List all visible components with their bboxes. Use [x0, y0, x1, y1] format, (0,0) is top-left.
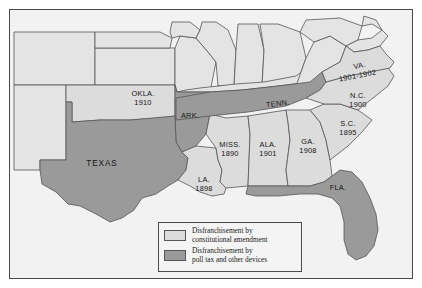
label-north-carolina-year: 1900	[349, 100, 366, 109]
legend-label-constitutional-amendment: Disfranchisement by constitutional amend…	[192, 227, 268, 244]
label-florida-abbr: FLA.	[330, 183, 347, 192]
label-oklahoma-abbr: OKLA.	[131, 89, 154, 98]
disfranchisement-map-figure: OKLA. 1910 ARK. TEXAS LA. 1898 MISS. 189…	[0, 0, 422, 288]
label-louisiana-abbr: LA.	[198, 175, 210, 184]
legend-item-poll-tax: Disfranchisement by poll tax and other d…	[164, 247, 296, 264]
legend-line-2: poll tax and other devices	[192, 255, 267, 264]
legend-swatch-dark-icon	[164, 250, 186, 261]
state-indiana	[234, 24, 264, 86]
state-oklahoma	[66, 85, 175, 122]
state-nebraska	[95, 32, 172, 48]
legend-label-poll-tax: Disfranchisement by poll tax and other d…	[192, 247, 267, 264]
label-arkansas-abbr: ARK.	[181, 111, 199, 120]
label-oklahoma-year: 1910	[134, 98, 151, 107]
label-georgia-abbr: GA.	[301, 137, 314, 146]
legend-line-2: constitutional amendment	[192, 235, 268, 244]
label-texas-abbr: TEXAS	[86, 159, 117, 168]
label-alabama-abbr: ALA.	[259, 140, 276, 149]
legend-item-constitutional-amendment: Disfranchisement by constitutional amend…	[164, 227, 296, 244]
label-alabama-year: 1901	[259, 149, 276, 158]
map-frame: OKLA. 1910 ARK. TEXAS LA. 1898 MISS. 189…	[9, 9, 413, 279]
label-georgia-year: 1908	[299, 146, 316, 155]
label-louisiana-year: 1898	[195, 184, 212, 193]
label-south-carolina-year: 1895	[339, 128, 356, 137]
map-legend: Disfranchisement by constitutional amend…	[158, 222, 302, 272]
label-south-carolina-abbr: S.C.	[340, 119, 355, 128]
state-kansas	[95, 48, 175, 85]
label-mississippi-year: 1890	[221, 149, 238, 158]
state-colorado	[14, 32, 95, 85]
legend-swatch-light-icon	[164, 230, 186, 241]
state-new-mexico	[14, 85, 66, 170]
label-north-carolina-abbr: N.C.	[350, 91, 366, 100]
label-mississippi-abbr: MISS.	[219, 140, 240, 149]
